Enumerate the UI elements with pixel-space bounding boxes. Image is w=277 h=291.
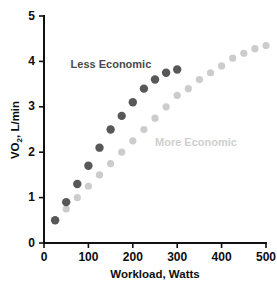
data-point [229, 55, 236, 62]
data-point [129, 98, 137, 106]
data-point [174, 92, 181, 99]
x-tick-label: 100 [78, 250, 98, 264]
y-tick-label: 1 [28, 190, 35, 204]
y-tick-label: 3 [28, 99, 35, 113]
y-axis-title-main: VO [9, 142, 21, 159]
data-point [73, 180, 81, 188]
x-tick-label: 500 [256, 250, 276, 264]
y-tick-label: 4 [28, 54, 35, 68]
data-point [95, 143, 103, 151]
data-point [251, 45, 258, 52]
chart-container: 012345 0100200300400500 Less Economic Mo… [0, 0, 277, 291]
y-tick-label: 0 [28, 236, 35, 250]
data-point [140, 126, 147, 133]
series-label-less-economic: Less Economic [71, 58, 152, 70]
data-point [240, 50, 247, 57]
data-point [129, 137, 136, 144]
data-point [151, 115, 158, 122]
data-point [163, 103, 170, 110]
data-point [162, 69, 170, 77]
y-tick-label: 5 [28, 9, 35, 23]
data-point [106, 125, 114, 133]
data-point [85, 183, 92, 190]
x-tick-label: 200 [123, 250, 143, 264]
data-point [63, 205, 70, 212]
data-point [196, 76, 203, 83]
data-point [74, 194, 81, 201]
vo2-workload-scatter-chart: 012345 0100200300400500 Less Economic Mo… [0, 0, 277, 291]
data-point [84, 162, 92, 170]
data-point [140, 84, 148, 92]
y-axis-title-rest: , L/min [9, 101, 21, 138]
data-point [207, 69, 214, 76]
data-point [51, 216, 59, 224]
series-label-more-economic: More Economic [155, 136, 237, 148]
x-axis-title: Workload, Watts [110, 268, 199, 280]
data-point [173, 65, 181, 73]
x-tick-label: 0 [41, 250, 48, 264]
data-point [62, 198, 70, 206]
data-point [218, 62, 225, 69]
data-point [107, 160, 114, 167]
data-point [185, 85, 192, 92]
data-point [151, 75, 159, 83]
data-point [96, 171, 103, 178]
data-point [118, 149, 125, 156]
y-tick-label: 2 [28, 145, 35, 159]
x-tick-label: 300 [167, 250, 187, 264]
data-point [262, 42, 269, 49]
x-tick-label: 400 [212, 250, 232, 264]
data-point [118, 112, 126, 120]
